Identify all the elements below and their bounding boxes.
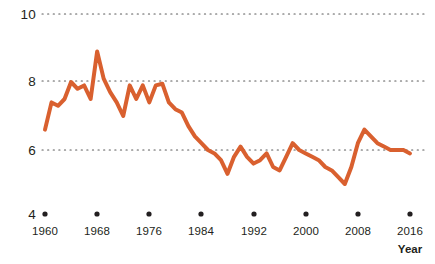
x-tick-label-2000: 2000	[284, 226, 328, 238]
y-tick-label-10: 10	[8, 8, 36, 22]
x-tick-dot-2000	[303, 211, 308, 216]
y-tick-label-8: 8	[8, 75, 36, 89]
x-tick-label-1992: 1992	[232, 226, 276, 238]
y-tick-label-4: 4	[8, 208, 36, 222]
x-tick-dot-2008	[355, 211, 360, 216]
x-tick-label-1968: 1968	[75, 226, 119, 238]
x-tick-dot-1984	[198, 211, 203, 216]
x-tick-label-1976: 1976	[127, 226, 171, 238]
y-tick-label-6: 6	[8, 144, 36, 158]
x-tick-dot-1960	[42, 211, 47, 216]
x-tick-label-2016: 2016	[388, 226, 432, 238]
x-axis-title: Year	[388, 244, 432, 256]
x-tick-label-1984: 1984	[179, 226, 223, 238]
chart-container: 10 8 6 4 1960 1968 1976 1984 1992 2000 2…	[0, 0, 435, 264]
x-tick-label-1960: 1960	[23, 226, 67, 238]
x-tick-markers-group	[42, 211, 412, 216]
data-series-line	[45, 51, 410, 184]
x-tick-dot-1968	[94, 211, 99, 216]
x-tick-label-2008: 2008	[336, 226, 380, 238]
x-tick-dot-2016	[407, 211, 412, 216]
x-tick-dot-1992	[251, 211, 256, 216]
x-tick-dot-1976	[146, 211, 151, 216]
